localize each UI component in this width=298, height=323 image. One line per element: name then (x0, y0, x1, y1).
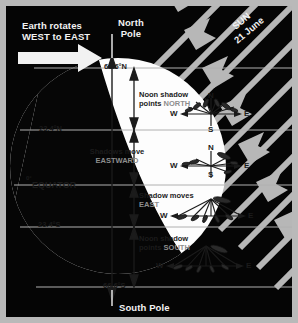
label-equator-degrees: 0° (26, 175, 32, 181)
compass-equatorial-e: E (248, 211, 253, 220)
compass-arctic-s: S (208, 125, 213, 134)
zone-southern-line2-accent: SOUTH (164, 243, 190, 252)
zone-southern-text: Noon shadow points SOUTH (139, 234, 190, 252)
south-pole-label: South Pole (119, 302, 170, 313)
north-pole-label-line1: North (118, 17, 144, 28)
compass-arctic-n: N (208, 91, 214, 100)
zone-tropic-north-line2-accent: EASTWARD (96, 156, 139, 165)
compass-arctic-w: W (170, 109, 178, 118)
compass-tropic-north-s: S (208, 170, 213, 179)
zone-equatorial-text: Shadow moves EAST (139, 191, 194, 209)
zone-arctic-line2-plain: points (139, 99, 164, 108)
rotation-label: Earth rotates WEST to EAST (22, 20, 90, 42)
compass-tropic-north-e: E (244, 161, 249, 170)
compass-tropic-north-w: W (170, 161, 178, 170)
compass-equatorial-w: W (160, 211, 168, 220)
zone-equatorial-line1: Shadow moves (139, 191, 194, 200)
label-tropic-of-cancer: 23.4°N (39, 124, 62, 133)
label-tropic-of-capricorn: 23.4°S (38, 220, 61, 229)
label-antarctic-circle: 66.6°S (103, 281, 126, 290)
rotation-label-line1: Earth rotates (22, 20, 82, 31)
label-equator-word: EQUATOR (32, 180, 76, 190)
compass-southern-e: E (246, 261, 251, 270)
rotation-label-line2: WEST to EAST (22, 31, 90, 42)
zone-tropic-north-line1: Shadows move (90, 147, 145, 156)
zone-equatorial-line2-accent: EAST (139, 200, 159, 209)
zone-arctic-text: Noon shadow points NORTH (139, 90, 190, 108)
diagram-frame: Earth rotates WEST to EAST North Pole So… (0, 0, 298, 323)
label-arctic-circle: 66.6°N (104, 62, 127, 71)
diagram-canvas: Earth rotates WEST to EAST North Pole So… (6, 6, 292, 317)
compass-southern-w: W (156, 261, 164, 270)
north-pole-label: North Pole (118, 17, 144, 39)
compass-tropic-north-n: N (208, 143, 214, 152)
zone-arctic-line1: Noon shadow (139, 90, 188, 99)
compass-arctic-e: E (244, 109, 249, 118)
zone-arctic-line2-accent: NORTH (164, 99, 191, 108)
zone-tropic-north-text: Shadows move EASTWARD (78, 147, 156, 165)
zone-southern-line1: Noon shadow (139, 234, 188, 243)
north-pole-label-line2: Pole (121, 28, 141, 39)
zone-southern-line2-plain: points (139, 243, 164, 252)
